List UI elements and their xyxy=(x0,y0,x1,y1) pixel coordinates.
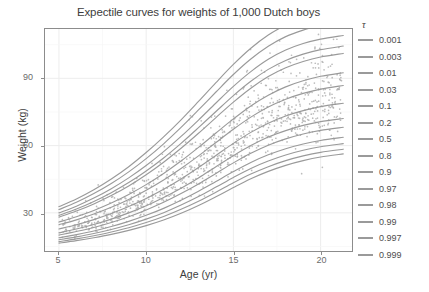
legend-item-0.98[interactable]: 0.98 xyxy=(358,197,429,214)
y-tick-mark xyxy=(41,78,44,79)
legend-line-icon xyxy=(358,188,373,190)
legend-item-0.97[interactable]: 0.97 xyxy=(358,181,429,198)
x-tick-mark xyxy=(58,252,59,255)
chart-root: Expectile curves for weights of 1,000 Du… xyxy=(0,0,429,292)
y-tick-label: 30 xyxy=(0,208,33,218)
legend-title: τ xyxy=(358,18,429,32)
legend-item-label: 0.01 xyxy=(379,68,397,78)
legend-item-label: 0.5 xyxy=(379,134,392,144)
curve-0.1 xyxy=(59,127,343,235)
legend-item-label: 0.1 xyxy=(379,101,392,111)
legend-item-label: 0.97 xyxy=(379,184,397,194)
legend-item-0.997[interactable]: 0.997 xyxy=(358,230,429,247)
x-tick-label: 15 xyxy=(214,255,254,265)
legend-item-label: 0.98 xyxy=(379,200,397,210)
legend-item-label: 0.99 xyxy=(379,217,397,227)
y-tick-mark xyxy=(41,214,44,215)
legend-item-label: 0.001 xyxy=(379,35,402,45)
legend-item-0.03[interactable]: 0.03 xyxy=(358,82,429,99)
legend-item-label: 0.03 xyxy=(379,85,397,95)
legend-line-icon xyxy=(358,89,373,91)
legend-line-icon xyxy=(358,56,373,58)
legend-item-label: 0.9 xyxy=(379,167,392,177)
legend-line-icon xyxy=(358,105,373,107)
plot-panel xyxy=(44,28,353,252)
legend-items: 0.0010.0030.010.030.10.20.50.80.90.970.9… xyxy=(358,32,429,263)
legend-line-icon xyxy=(358,122,373,124)
x-tick-label: 5 xyxy=(38,255,78,265)
legend-item-0.01[interactable]: 0.01 xyxy=(358,65,429,82)
plot-area xyxy=(45,29,352,251)
legend-item-label: 0.8 xyxy=(379,151,392,161)
curve-0.001 xyxy=(59,154,343,243)
legend-item-0.001[interactable]: 0.001 xyxy=(358,32,429,49)
legend-line-icon xyxy=(358,221,373,223)
y-tick-mark xyxy=(41,146,44,147)
legend-item-0.8[interactable]: 0.8 xyxy=(358,148,429,165)
legend-item-0.1[interactable]: 0.1 xyxy=(358,98,429,115)
legend-line-icon xyxy=(358,254,373,256)
legend-item-0.99[interactable]: 0.99 xyxy=(358,214,429,231)
x-tick-mark xyxy=(146,252,147,255)
legend: τ 0.0010.0030.010.030.10.20.50.80.90.970… xyxy=(358,18,429,263)
legend-line-icon xyxy=(358,138,373,140)
legend-item-label: 0.2 xyxy=(379,118,392,128)
legend-item-0.2[interactable]: 0.2 xyxy=(358,115,429,132)
legend-item-0.5[interactable]: 0.5 xyxy=(358,131,429,148)
x-axis-label: Age (yr) xyxy=(44,268,353,280)
legend-item-label: 0.999 xyxy=(379,250,402,260)
x-tick-label: 10 xyxy=(126,255,166,265)
legend-line-icon xyxy=(358,155,373,157)
legend-line-icon xyxy=(358,237,373,239)
x-tick-mark xyxy=(321,252,322,255)
x-tick-mark xyxy=(234,252,235,255)
legend-item-0.9[interactable]: 0.9 xyxy=(358,164,429,181)
curve-0.5 xyxy=(59,103,343,229)
x-tick-label: 20 xyxy=(301,255,341,265)
legend-item-0.999[interactable]: 0.999 xyxy=(358,247,429,264)
scatter-points xyxy=(62,34,343,240)
legend-item-label: 0.003 xyxy=(379,52,402,62)
legend-item-label: 0.997 xyxy=(379,233,402,243)
legend-item-0.003[interactable]: 0.003 xyxy=(358,49,429,66)
y-axis-label: Weight (kg) xyxy=(16,75,28,195)
legend-line-icon xyxy=(358,72,373,74)
chart-title: Expectile curves for weights of 1,000 Du… xyxy=(44,6,353,18)
legend-line-icon xyxy=(358,39,373,41)
legend-line-icon xyxy=(358,171,373,173)
legend-line-icon xyxy=(358,204,373,206)
